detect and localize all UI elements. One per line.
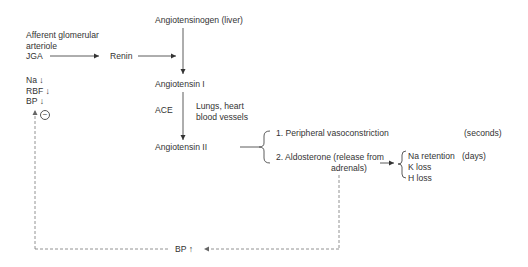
ace-site-label: Lungs, heart xyxy=(196,101,244,112)
angiotensin-2-label: Angiotensin II xyxy=(155,142,207,153)
effect-aldosterone-label: 2. Aldosterone (release from xyxy=(276,152,384,163)
brace-aldosterone-effects xyxy=(398,151,406,178)
aldo-na-retention-time: (days) xyxy=(462,151,486,162)
stimulus-bp-label: BP ↓ xyxy=(26,96,44,107)
jga-label: JGA xyxy=(26,51,43,62)
stimulus-na-label: Na ↓ xyxy=(26,75,44,86)
effect-vasoconstriction-label: 1. Peripheral vasoconstriction xyxy=(276,128,389,139)
angiotensin-1-label: Angiotensin I xyxy=(155,79,205,90)
aldo-h-loss-label: H loss xyxy=(408,173,432,184)
effect-aldosterone-label-2: adrenals) xyxy=(331,163,367,174)
ace-label: ACE xyxy=(155,105,173,116)
afferent-arteriole-label: Afferent glomerular xyxy=(26,30,99,41)
brace-effects xyxy=(259,131,270,163)
renin-label: Renin xyxy=(110,51,132,62)
effect-vasoconstriction-time: (seconds) xyxy=(464,128,502,139)
aldo-na-retention-label: Na retention xyxy=(408,151,455,162)
angiotensinogen-label: Angiotensinogen (liver) xyxy=(155,15,243,26)
aldo-k-loss-label: K loss xyxy=(408,162,431,173)
inhibition-icon: − xyxy=(40,110,50,120)
ace-site-label-2: blood vessels xyxy=(196,112,248,123)
result-bp-label: BP ↑ xyxy=(175,244,193,255)
